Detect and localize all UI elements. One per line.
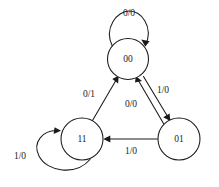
transition-01-to-11: 1/0 <box>103 136 157 157</box>
transition-label-11-to-00: 0/1 <box>83 89 95 99</box>
state-label-01: 01 <box>174 134 184 144</box>
edge-11-to-00-path <box>93 79 118 121</box>
transition-label-00-to-00: 0/0 <box>123 8 135 18</box>
transition-11-to-00: 0/1 <box>83 75 119 120</box>
state-node-01[interactable]: 01 <box>158 118 200 160</box>
state-node-11[interactable]: 11 <box>61 118 103 160</box>
state-diagram: 0/0 0/1 0/0 1/0 1/0 <box>0 0 219 187</box>
edge-01-to-11-arrowhead <box>103 136 110 143</box>
transition-label-01-to-00: 0/0 <box>125 99 137 109</box>
state-node-00[interactable]: 00 <box>108 39 149 80</box>
transition-00-to-01: 1/0 <box>144 77 171 122</box>
state-diagram-canvas: 0/0 0/1 0/0 1/0 1/0 <box>0 0 219 187</box>
transition-label-11-to-11: 1/0 <box>14 151 26 161</box>
state-label-00: 00 <box>123 54 133 64</box>
transition-label-00-to-01: 1/0 <box>157 85 169 95</box>
state-label-11: 11 <box>77 134 86 144</box>
transition-label-01-to-11: 1/0 <box>125 146 137 156</box>
self-loop-11-arrowhead <box>54 127 61 134</box>
edge-00-to-01-path <box>144 77 169 119</box>
